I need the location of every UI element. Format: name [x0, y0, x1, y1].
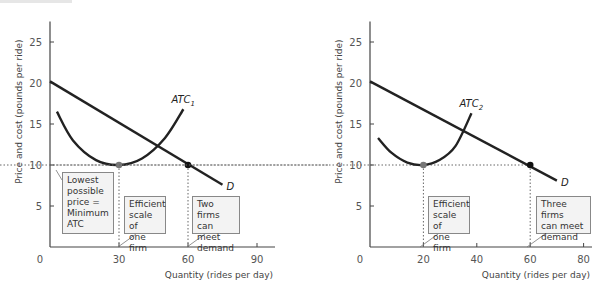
annotation-line: price = — [67, 197, 109, 208]
y-tick-label: 25 — [29, 37, 42, 48]
annotation-box: Lowestpossibleprice =MinimumATC — [62, 172, 114, 234]
annotation-box: Efficientscale ofone firm — [124, 196, 166, 234]
annotation-line: Lowest — [67, 175, 109, 186]
demand-curve — [50, 81, 223, 184]
atc-label: ATC1 — [170, 94, 195, 108]
atc-curve — [57, 109, 183, 165]
annotation-line: scale of — [433, 210, 465, 232]
x-tick-label: 90 — [251, 254, 264, 265]
y-tick-label: 20 — [29, 78, 42, 89]
y-tick-label: 25 — [349, 37, 362, 48]
x-tick-label: 0 — [37, 254, 43, 265]
annotation-box: Efficientscale ofone firm — [428, 196, 470, 234]
right-panel: 510152025020406080Price and cost (pounds… — [0, 22, 592, 281]
annotation-line: Efficient — [129, 199, 161, 210]
y-axis-label: Price and cost (pounds per ride) — [334, 40, 344, 184]
atc-label: ATC2 — [458, 98, 483, 112]
annotation-line: possible — [67, 186, 109, 197]
x-tick-label: 60 — [182, 254, 195, 265]
x-axis-label: Quantity (rides per day) — [165, 270, 273, 280]
annotation-line: Minimum — [67, 208, 109, 219]
chart-canvas: 5101520250306090Price and cost (pounds p… — [0, 0, 595, 285]
annotation-box: Three firmscan meetdemand — [536, 196, 591, 234]
left-panel: 5101520250306090Price and cost (pounds p… — [14, 22, 330, 281]
annotation-line: demand — [197, 243, 235, 254]
y-axis-label: Price and cost (pounds per ride) — [14, 40, 24, 184]
y-tick-label: 15 — [349, 119, 362, 130]
x-tick-label: 60 — [524, 254, 537, 265]
annotation-line: Two firms — [197, 199, 235, 221]
min-atc-point — [420, 162, 427, 169]
x-tick-label: 40 — [470, 254, 483, 265]
annotation-line: one firm — [433, 232, 465, 254]
demand-point — [527, 162, 534, 169]
annotation-line: ATC — [67, 219, 109, 230]
y-tick-label: 15 — [29, 119, 42, 130]
chart-figure: 5101520250306090Price and cost (pounds p… — [0, 0, 595, 285]
x-tick-label: 20 — [417, 254, 430, 265]
atc-curve — [378, 113, 471, 165]
x-axis-label: Quantity (rides per day) — [482, 270, 590, 280]
y-tick-label: 20 — [349, 78, 362, 89]
annotation-line: demand — [541, 232, 586, 243]
y-tick-label: 5 — [356, 201, 362, 212]
y-tick-label: 5 — [36, 201, 42, 212]
x-tick-label: 80 — [577, 254, 590, 265]
annotation-box: Two firmscan meetdemand — [192, 196, 240, 234]
annotation-line: Efficient — [433, 199, 465, 210]
annotation-line: one firm — [129, 232, 161, 254]
annotation-line: can meet — [541, 221, 586, 232]
demand-label: D — [227, 181, 235, 192]
annotation-line: scale of — [129, 210, 161, 232]
x-tick-label: 0 — [357, 254, 363, 265]
demand-label: D — [561, 177, 569, 188]
annotation-line: can meet — [197, 221, 235, 243]
x-tick-label: 30 — [113, 254, 126, 265]
annotation-line: Three firms — [541, 199, 586, 221]
